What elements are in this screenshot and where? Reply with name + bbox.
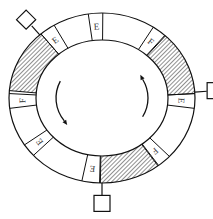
bottom-square-square-icon (94, 195, 110, 211)
top-left-diamond-stem (32, 26, 40, 35)
segment-label-e: E (176, 98, 186, 104)
segment-label-f: F (146, 36, 156, 47)
rotation-arrows (56, 75, 148, 125)
hatched-segment (100, 144, 158, 183)
segment-label-e: E (93, 21, 100, 31)
left-arrow (56, 81, 64, 121)
segment-divider (9, 94, 36, 95)
segment-divider (168, 105, 195, 108)
ring-buffer-diagram: EFEFEEFE (0, 0, 213, 219)
segment-divider (88, 14, 92, 41)
segment-divider (10, 105, 37, 108)
segment-divider (100, 156, 101, 183)
segment-divider (82, 155, 88, 181)
segment-label-e: E (50, 34, 61, 46)
segment-label-f: F (17, 98, 27, 103)
segment-label-f: F (150, 146, 160, 157)
right-square-square-icon (207, 83, 213, 99)
segment-label-e: E (88, 164, 95, 175)
right-arrow (143, 79, 148, 117)
right-square-stem (195, 91, 207, 92)
